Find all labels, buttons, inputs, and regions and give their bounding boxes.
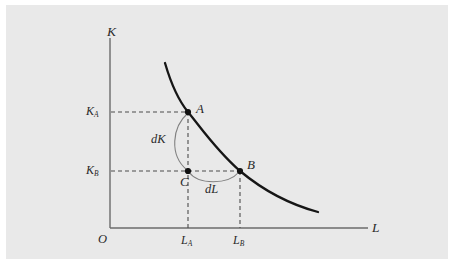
point-label-c: C [180,175,189,188]
x-axis-label: L [372,221,380,235]
tick-kb-sub: B [94,169,99,178]
tick-label-la: LA [181,234,192,247]
tick-lb-base: L [233,233,240,247]
tick-label-ka: KA [86,105,99,118]
dl-arc [189,172,239,182]
point-b-marker [237,168,243,174]
point-label-a: A [196,102,204,115]
tick-label-lb: LB [233,234,244,247]
annotation-dl: dL [205,183,218,196]
point-a-marker [185,109,191,115]
tick-la-base: L [181,233,188,247]
origin-label: O [98,233,107,246]
annotation-dk: dK [151,133,166,146]
isoquant-plot [6,5,448,259]
tick-label-kb: KB [86,164,99,177]
tick-ka-sub: A [94,110,99,119]
dk-arc [175,113,188,170]
tick-kb-base: K [86,163,94,177]
diagram-panel: K L O KA KB LA LB A B C dK dL [6,5,448,259]
y-axis-label: K [107,25,116,39]
tick-la-sub: A [188,239,193,248]
tick-lb-sub: B [240,239,245,248]
figure-canvas: K L O KA KB LA LB A B C dK dL [0,0,454,268]
tick-ka-base: K [86,104,94,118]
point-label-b: B [247,158,255,171]
